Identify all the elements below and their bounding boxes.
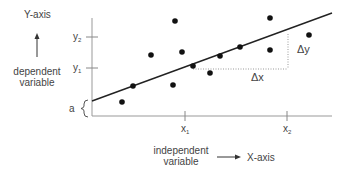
data-point xyxy=(148,52,154,58)
data-point xyxy=(207,70,213,76)
data-point xyxy=(267,15,273,21)
right-arrow-icon xyxy=(235,155,241,160)
data-point xyxy=(267,47,273,53)
data-point xyxy=(119,99,125,105)
data-point xyxy=(237,44,243,50)
data-point xyxy=(306,32,312,38)
regression-line xyxy=(92,13,332,101)
y1-tick-label: y1 xyxy=(73,62,81,77)
up-arrow-icon xyxy=(35,33,40,39)
data-point xyxy=(170,82,176,88)
data-point xyxy=(217,53,223,59)
data-point xyxy=(130,83,136,89)
data-points xyxy=(119,15,312,105)
x-axis-label: X-axis xyxy=(247,152,275,163)
dependent-variable-label: dependent variable xyxy=(6,66,68,88)
data-point xyxy=(179,49,185,55)
intercept-label: a xyxy=(69,103,75,114)
delta-y-label: Δy xyxy=(297,44,310,55)
y2-tick-label: y2 xyxy=(73,31,81,46)
delta-x-label: Δx xyxy=(251,72,264,83)
x2-tick-label: x2 xyxy=(283,123,291,138)
data-point xyxy=(190,63,196,69)
intercept-brace-icon xyxy=(81,100,88,117)
x1-tick-label: x1 xyxy=(181,123,189,138)
data-point xyxy=(172,18,178,24)
y-axis-label: Y-axis xyxy=(24,9,51,20)
independent-variable-label: independent variable xyxy=(148,145,214,167)
